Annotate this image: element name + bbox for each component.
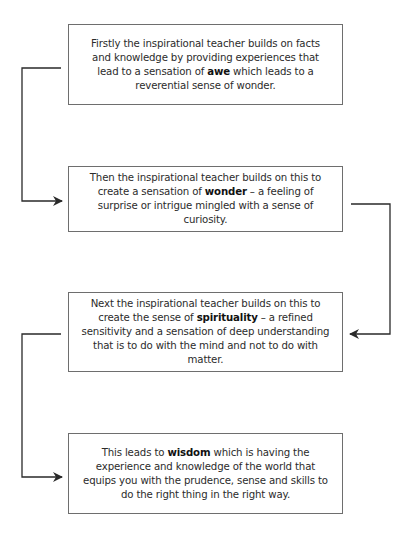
step-1-text: Firstly the inspirational teacher builds… (81, 37, 330, 93)
connector-step3-to-step4 (22, 334, 62, 477)
step-1-awe-box: Firstly the inspirational teacher builds… (68, 24, 343, 105)
step-4-keyword: wisdom (167, 447, 210, 458)
step-2-wonder-box: Then the inspirational teacher builds on… (68, 166, 343, 232)
step-4-text: This leads to wisdom which is having the… (81, 446, 330, 502)
step-3-text: Next the inspirational teacher builds on… (79, 297, 332, 367)
step-3-spirituality-box: Next the inspirational teacher builds on… (68, 292, 343, 372)
connector-step2-to-step3 (350, 204, 390, 334)
step-2-text: Then the inspirational teacher builds on… (85, 171, 326, 227)
step-3-keyword: spirituality (197, 312, 258, 323)
step-2-keyword: wonder (205, 186, 247, 197)
step-4-text-pre: This leads to (102, 447, 168, 458)
step-4-wisdom-box: This leads to wisdom which is having the… (68, 433, 343, 514)
step-1-keyword: awe (207, 66, 230, 77)
connector-step1-to-step2 (22, 68, 62, 201)
